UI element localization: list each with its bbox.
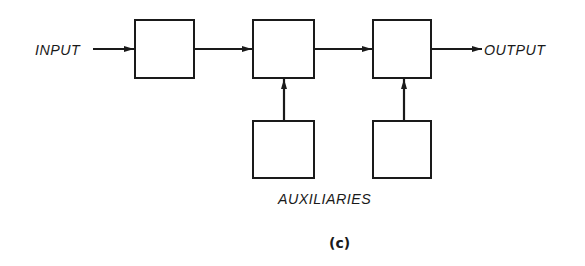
auxiliaries-label: AUXILIARIES (278, 191, 371, 206)
block-diagram (0, 0, 585, 266)
auxiliary-block-1 (253, 121, 314, 178)
block-3 (373, 20, 431, 78)
output-label: OUTPUT (484, 42, 545, 57)
figure-caption: (c) (329, 236, 350, 250)
input-label: INPUT (35, 42, 80, 57)
block-1 (135, 20, 194, 78)
block-2 (253, 20, 314, 78)
auxiliary-block-2 (373, 121, 431, 178)
